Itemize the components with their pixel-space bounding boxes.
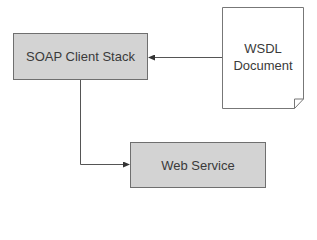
soap-client-stack-box[interactable]: SOAP Client Stack [13,33,148,80]
soap-client-stack-label: SOAP Client Stack [26,49,135,64]
wsdl-document-label: WSDL Document [222,40,304,74]
wsdl-document-label-line1: WSDL [222,40,304,57]
wsdl-document-label-line2: Document [222,57,304,74]
web-service-label: Web Service [161,158,234,173]
arrow-soap-to-webservice [81,79,130,165]
web-service-box[interactable]: Web Service [130,142,266,188]
